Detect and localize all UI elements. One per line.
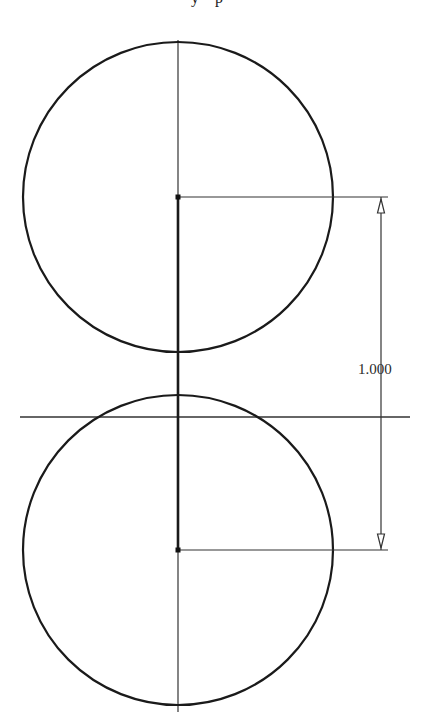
dimension-arrow-up-icon xyxy=(378,199,385,213)
dimension-value[interactable]: 1.000 xyxy=(358,361,392,377)
sketch-canvas[interactable]: 1.000 xyxy=(0,0,428,728)
dimension-arrow-down-icon xyxy=(378,534,385,548)
top-center-point[interactable] xyxy=(176,195,181,200)
bottom-center-point[interactable] xyxy=(176,548,181,553)
